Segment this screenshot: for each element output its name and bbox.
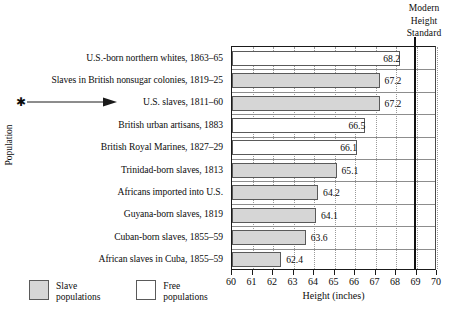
y-axis-title: Population bbox=[4, 105, 14, 185]
modern-height-standard-line-2: Height bbox=[396, 15, 452, 28]
bar bbox=[232, 185, 318, 200]
category-label: African slaves in Cuba, 1855–59 bbox=[99, 253, 228, 264]
category-label: Slaves in British nonsugar colonies, 181… bbox=[51, 74, 228, 85]
x-axis-tick bbox=[375, 270, 376, 275]
row-separator bbox=[232, 92, 435, 93]
legend-label: Freepopulations bbox=[163, 280, 207, 302]
category-label: Africans imported into U.S. bbox=[118, 186, 229, 197]
category-label-row: Cuban-born slaves, 1855–59 bbox=[16, 225, 228, 247]
bar-value-label: 67.2 bbox=[380, 96, 402, 111]
x-axis-tick bbox=[416, 270, 417, 275]
legend-label: Slavepopulations bbox=[56, 280, 100, 302]
x-axis-tick-label: 70 bbox=[424, 276, 448, 287]
gridline bbox=[417, 47, 418, 269]
category-label: U.S.-born northern whites, 1863–65 bbox=[86, 52, 228, 63]
x-axis-title: Height (inches) bbox=[231, 290, 436, 301]
category-label-row: African slaves in Cuba, 1855–59 bbox=[16, 248, 228, 270]
category-label: British urban artisans, 1883 bbox=[118, 119, 228, 130]
chart-legend: SlavepopulationsFreepopulations bbox=[29, 280, 208, 310]
row-separator bbox=[232, 69, 435, 70]
category-label: Cuban-born slaves, 1855–59 bbox=[114, 231, 228, 242]
row-separator bbox=[232, 181, 435, 182]
category-label-row: U.S.-born northern whites, 1863–65 bbox=[16, 46, 228, 68]
legend-label-line-1: Free bbox=[163, 281, 207, 292]
modern-height-standard-line bbox=[414, 37, 416, 269]
category-label: Trinidad-born slaves, 1813 bbox=[121, 164, 228, 175]
legend-label-line-2: populations bbox=[56, 292, 100, 303]
row-separator bbox=[232, 159, 435, 160]
legend-swatch-slave bbox=[29, 280, 49, 300]
x-axis-tick bbox=[252, 270, 253, 275]
modern-height-standard-line-3: Standard bbox=[396, 27, 452, 40]
bar bbox=[232, 208, 316, 223]
x-axis-tick bbox=[436, 270, 437, 275]
bar bbox=[232, 73, 380, 88]
bar bbox=[232, 252, 281, 267]
bar-value-label: 66.1 bbox=[232, 140, 361, 155]
category-label-row: Africans imported into U.S. bbox=[16, 180, 228, 202]
row-separator bbox=[232, 114, 435, 115]
bar-value-label: 65.1 bbox=[337, 163, 359, 178]
category-label-row: British Royal Marines, 1827–29 bbox=[16, 136, 228, 158]
x-axis-tick bbox=[272, 270, 273, 275]
gridline bbox=[437, 47, 438, 269]
modern-height-standard-caption: Modern Height Standard bbox=[396, 2, 452, 40]
plot-inner: 68.267.267.266.566.165.164.264.163.662.4 bbox=[232, 47, 435, 269]
x-axis-tick bbox=[231, 270, 232, 275]
x-axis-tick-labels: 6061626364656667686970 bbox=[231, 276, 436, 289]
row-separator bbox=[232, 204, 435, 205]
plot-area: 68.267.267.266.566.165.164.264.163.662.4 bbox=[231, 46, 436, 270]
bar bbox=[232, 163, 337, 178]
asterisk-arrow-annotation: ✱ bbox=[16, 91, 119, 113]
category-label-row: Guyana-born slaves, 1819 bbox=[16, 203, 228, 225]
category-label-row: Trinidad-born slaves, 1813 bbox=[16, 158, 228, 180]
x-axis-tick bbox=[395, 270, 396, 275]
bar bbox=[232, 230, 306, 245]
category-label-row: British urban artisans, 1883 bbox=[16, 113, 228, 135]
arrow-right-icon bbox=[27, 97, 119, 107]
category-label-row: ✱U.S. slaves, 1811–60 bbox=[16, 91, 228, 113]
row-separator bbox=[232, 226, 435, 227]
bar-value-label: 64.2 bbox=[318, 185, 340, 200]
bar-value-label: 66.5 bbox=[232, 118, 369, 133]
bar-value-label: 62.4 bbox=[281, 252, 303, 267]
category-label-column: U.S.-born northern whites, 1863–65Slaves… bbox=[16, 46, 228, 270]
x-axis-tick bbox=[354, 270, 355, 275]
height-by-population-bar-chart: Modern Height Standard Population U.S.-b… bbox=[0, 0, 452, 314]
legend-item: Freepopulations bbox=[136, 280, 207, 302]
category-label: Guyana-born slaves, 1819 bbox=[124, 208, 228, 219]
bar bbox=[232, 96, 380, 111]
legend-label-line-2: populations bbox=[163, 292, 207, 303]
row-separator bbox=[232, 137, 435, 138]
x-axis-tick bbox=[334, 270, 335, 275]
category-label: U.S. slaves, 1811–60 bbox=[143, 96, 228, 107]
legend-item: Slavepopulations bbox=[29, 280, 100, 302]
legend-label-line-1: Slave bbox=[56, 281, 100, 292]
bar-value-label: 63.6 bbox=[306, 230, 328, 245]
category-label: British Royal Marines, 1827–29 bbox=[101, 141, 228, 152]
x-axis-tick bbox=[293, 270, 294, 275]
legend-swatch-free bbox=[136, 280, 156, 300]
x-axis-tick bbox=[313, 270, 314, 275]
modern-height-standard-line-1: Modern bbox=[396, 2, 452, 15]
asterisk-icon: ✱ bbox=[16, 96, 26, 108]
bar-value-label: 64.1 bbox=[316, 208, 338, 223]
category-label-row: Slaves in British nonsugar colonies, 181… bbox=[16, 68, 228, 90]
row-separator bbox=[232, 249, 435, 250]
bar-value-label: 67.2 bbox=[380, 73, 402, 88]
bar-value-label: 68.2 bbox=[232, 51, 404, 66]
